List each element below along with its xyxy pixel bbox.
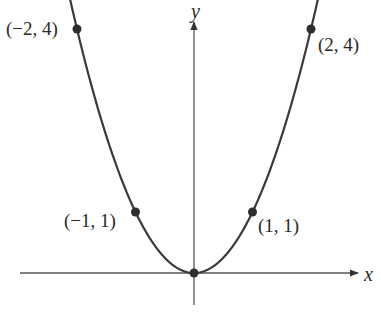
point-label-2-4: (2, 4)	[318, 35, 359, 54]
data-point	[73, 25, 82, 34]
data-point	[307, 25, 316, 34]
data-point	[190, 269, 199, 278]
data-point	[248, 208, 257, 217]
point-label-1-1: (1, 1)	[258, 216, 299, 235]
point-label-neg2-4: (−2, 4)	[6, 19, 58, 38]
point-label-neg1-1: (−1, 1)	[64, 211, 116, 230]
x-axis-label: x	[364, 264, 373, 284]
y-axis-label: y	[191, 1, 200, 21]
data-point	[131, 208, 140, 217]
